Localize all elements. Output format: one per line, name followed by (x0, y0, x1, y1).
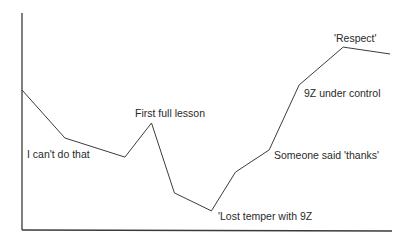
annotation-lost-temper: 'Lost temper with 9Z (218, 210, 313, 222)
line-chart: I can't do that First full lesson 'Lost … (0, 0, 412, 241)
annotation-someone-said-thanks: Someone said 'thanks' (274, 149, 379, 161)
x-axis (22, 230, 392, 231)
annotation-cant-do-that: I can't do that (27, 148, 90, 160)
timeline-series-line (22, 47, 390, 211)
annotation-9z-under-control: 9Z under control (304, 87, 380, 99)
annotation-first-full-lesson: First full lesson (135, 107, 205, 119)
annotation-respect: 'Respect' (334, 32, 377, 44)
